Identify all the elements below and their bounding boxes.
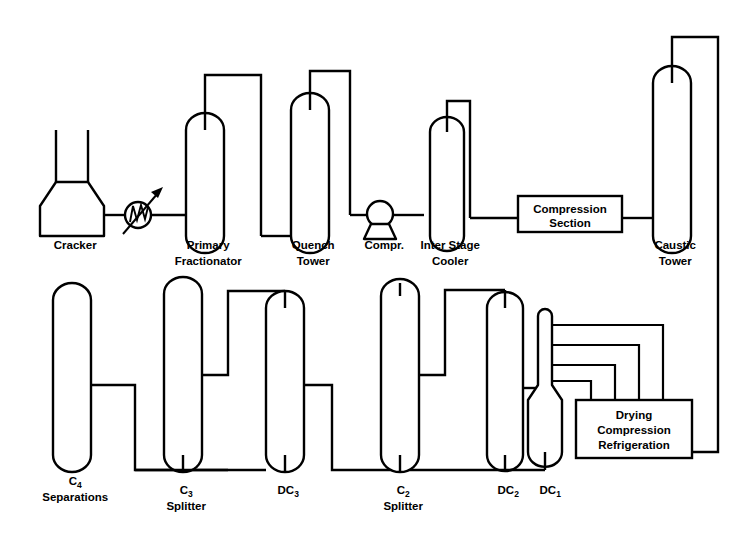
compressor-base [364,224,396,239]
label-inter-stage-cooler-line2: Cooler [410,255,485,267]
pipe-dc1-product-1 [552,325,663,400]
label-c4-separations-symbol: C4 [46,475,97,490]
label-compression: Compression [597,424,671,436]
unit-dc3[interactable] [266,291,304,472]
label-c2-splitter-line2: Splitter [361,500,439,512]
label-dc3: DC3 [255,484,315,499]
label-inter-stage-cooler-line1: Inter Stage [398,239,496,251]
label-drying: Drying [616,409,652,421]
heat-exchanger-icon [123,187,163,234]
label-c3-splitter-symbol: C3 [157,484,208,499]
cracker-body [40,182,104,236]
unit-c3-splitter[interactable] [164,277,202,472]
label-c4-separations-line2: Separations [20,491,124,503]
label-primary-fractionator-line1: Primary [164,239,245,251]
label-quench-tower-line2: Tower [274,255,345,267]
unit-c2-splitter[interactable] [381,279,419,472]
pipe-dc3-to-c2-bottom [304,385,445,470]
label-refrigeration: Refrigeration [598,439,670,451]
unit-quench-tower[interactable] [291,93,329,253]
unit-caustic-tower[interactable] [653,66,691,253]
unit-c4-separations[interactable] [53,283,91,472]
pipe-dc1-product-3 [552,365,615,400]
label-quench-tower-line1: Quench [269,239,350,251]
unit-compressor[interactable] [364,201,396,239]
unit-inter-stage-cooler[interactable] [430,117,464,251]
process-flow-diagram: Cracker Primary Fractionator Quench Towe… [0,0,747,542]
unit-primary-fractionator[interactable] [186,113,224,253]
label-primary-fractionator-line2: Fractionator [152,255,257,267]
label-c3-splitter-line2: Splitter [144,500,222,512]
pipe-dc1-product-2 [552,345,639,400]
pipe-c4-to-c3-bottom [91,385,228,470]
label-cracker: Cracker [31,239,112,251]
pfd-canvas: Cracker Primary Fractionator Quench Towe… [0,0,747,542]
exchanger-arrow-head [151,187,163,198]
label-caustic-tower-line2: Tower [636,255,707,267]
label-compression-section-line1: Compression [533,203,607,215]
label-compression-section-line2: Section [549,217,591,229]
unit-dc2[interactable] [487,292,523,471]
unit-cracker[interactable] [40,130,104,236]
label-caustic-tower-line1: Caustic [632,239,712,251]
label-c2-splitter-symbol: C2 [374,484,425,499]
